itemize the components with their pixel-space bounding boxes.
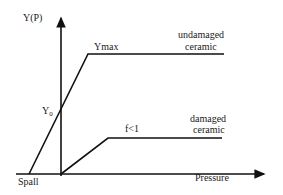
damaged-ceramic-curve <box>61 138 222 174</box>
damaged-label-line2: ceramic <box>193 124 225 135</box>
diagram-canvas: Y(P) Ymax undamaged ceramic Y0 f<1 damag… <box>0 0 283 195</box>
undamaged-label-line2: ceramic <box>185 41 217 52</box>
y-axis-label: Y(P) <box>23 12 42 24</box>
ymax-label: Ymax <box>94 41 118 52</box>
x-axis-label: Pressure <box>195 172 229 183</box>
spall-label: Spall <box>18 176 39 187</box>
y0-label: Y0 <box>42 105 53 118</box>
undamaged-label-line1: undamaged <box>178 29 224 40</box>
f-less-than-one-label: f<1 <box>125 123 139 134</box>
damaged-label-line1: damaged <box>190 113 226 124</box>
